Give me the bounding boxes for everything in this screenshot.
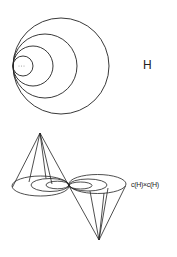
right-ellipse-outer	[69, 175, 126, 194]
right-ellipse-inner	[69, 182, 92, 189]
circle-inner	[13, 56, 33, 76]
circle-outer	[13, 18, 109, 114]
label-h: H	[143, 58, 152, 72]
left-ellipse-inner	[46, 181, 69, 189]
circle-second	[13, 34, 77, 98]
left-cone	[12, 133, 69, 196]
label-cone-product: c(H)×c(H)	[131, 181, 159, 188]
nested-circles	[13, 18, 109, 114]
diagram-canvas	[0, 0, 177, 257]
left-ellipse-middle	[31, 179, 69, 192]
right-cone	[69, 175, 126, 241]
inner-dots	[19, 66, 25, 67]
right-ellipse-middle	[69, 179, 107, 191]
